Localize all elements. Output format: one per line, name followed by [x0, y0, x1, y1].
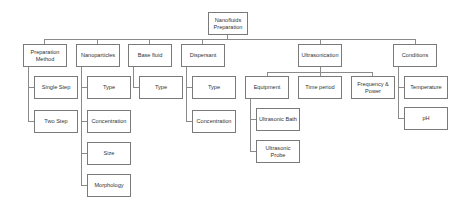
node-nanoparticles: Nanoparticles [76, 44, 120, 67]
node-bf-type: Type [139, 76, 183, 99]
node-label: Concentration [197, 118, 232, 125]
node-label: Equipment [254, 84, 281, 91]
connector [133, 67, 134, 88]
node-label: Temperature [410, 84, 441, 91]
node-label: Size [104, 150, 115, 157]
node-label: Type [155, 84, 167, 91]
connector [81, 67, 82, 186]
node-temperature: Temperature [404, 76, 448, 99]
node-label: Nanoparticles [81, 52, 115, 59]
node-label: Two Step [44, 118, 67, 125]
node-label: pH [422, 115, 429, 122]
node-frequency-power: Frequency & Power [351, 76, 395, 99]
node-label: Base fluid [138, 52, 163, 59]
node-preparation-method: Preparation Method [23, 44, 67, 67]
node-label: Single Step [42, 84, 71, 91]
node-ph: pH [404, 107, 448, 130]
node-np-morphology: Morphology [87, 174, 131, 197]
node-base-fluid: Base fluid [128, 44, 172, 67]
node-label: Time period [305, 84, 334, 91]
node-label: Ultrasonic Probe [258, 145, 298, 159]
node-ultrasonic-bath: Ultrasonic Bath [256, 108, 300, 131]
node-label: Dispersant [190, 52, 217, 59]
node-label: Ultrasonic Bath [259, 116, 297, 123]
connector [28, 67, 29, 122]
node-label: Nanofluids Preparation [210, 17, 246, 31]
node-ultrasonic-probe: Ultrasonic Probe [256, 140, 300, 163]
node-np-size: Size [87, 142, 131, 165]
node-label: Preparation Method [25, 49, 65, 63]
node-equipment: Equipment [245, 76, 289, 99]
node-dispersant: Dispersant [181, 44, 225, 67]
node-label: Ultrasonication [302, 52, 339, 59]
node-disp-concentration: Concentration [192, 110, 236, 133]
node-label: Type [208, 84, 220, 91]
node-root: Nanofluids Preparation [208, 12, 248, 35]
node-conditions: Conditions [393, 44, 437, 67]
node-single-step: Single Step [34, 76, 78, 99]
node-label: Morphology [94, 182, 123, 189]
node-np-concentration: Concentration [87, 110, 131, 133]
node-two-step: Two Step [34, 110, 78, 133]
node-np-type: Type [87, 76, 131, 99]
node-time-period: Time period [298, 76, 342, 99]
node-label: Conditions [402, 52, 428, 59]
connector [250, 98, 251, 152]
node-label: Frequency & Power [353, 81, 393, 95]
node-disp-type: Type [192, 76, 236, 99]
connector [186, 67, 187, 122]
nanofluids-preparation-diagram: Nanofluids Preparation Preparation Metho… [0, 0, 472, 207]
node-label: Type [103, 84, 115, 91]
node-ultrasonication: Ultrasonication [298, 44, 342, 67]
connector [44, 39, 416, 40]
node-label: Concentration [92, 118, 127, 125]
connector [398, 67, 399, 119]
